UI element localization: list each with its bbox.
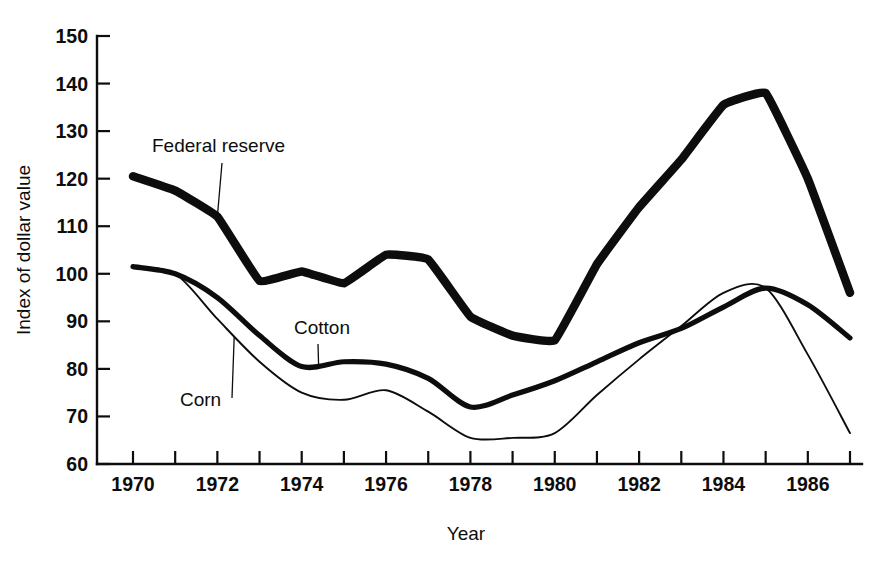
x-tick-label: 1972 — [196, 473, 240, 495]
annotation-label-corn: Corn — [180, 389, 221, 410]
y-tick-label: 90 — [66, 310, 88, 332]
chart-figure: Index of dollar value Year 6070809010011… — [0, 0, 875, 568]
y-axis-title: Index of dollar value — [13, 165, 34, 335]
x-tick-label: 1976 — [364, 473, 408, 495]
x-axis-ticks — [133, 451, 850, 464]
y-tick-label: 140 — [55, 73, 88, 95]
y-axis-tick-labels: 60708090100110120130140150 — [55, 25, 88, 475]
y-tick-label: 80 — [66, 358, 88, 380]
y-axis-ticks — [97, 36, 110, 464]
x-tick-label: 1986 — [786, 473, 830, 495]
annotation-label-cotton: Cotton — [294, 317, 350, 338]
annotation-label-federal-reserve: Federal reserve — [152, 135, 285, 156]
annotation-leader-line — [232, 336, 234, 398]
series-line-cotton — [133, 267, 850, 408]
x-tick-label: 1982 — [617, 473, 661, 495]
x-tick-label: 1984 — [702, 473, 746, 495]
y-tick-label: 120 — [55, 168, 88, 190]
annotation-leader-line — [318, 344, 319, 365]
y-tick-label: 70 — [66, 405, 88, 427]
line-chart: Index of dollar value Year 6070809010011… — [0, 0, 875, 568]
annotation-leader-line — [217, 163, 222, 217]
y-tick-label: 110 — [57, 215, 89, 237]
x-axis-tick-labels: 197019721974197619781980198219841986 — [111, 473, 829, 495]
x-tick-label: 1974 — [280, 473, 324, 495]
x-tick-label: 1970 — [111, 473, 155, 495]
y-tick-label: 150 — [55, 25, 88, 47]
y-tick-label: 60 — [66, 453, 88, 475]
y-tick-label: 100 — [55, 263, 88, 285]
x-axis-title: Year — [447, 523, 486, 544]
y-tick-label: 130 — [55, 120, 88, 142]
series-line-federal-reserve — [133, 93, 850, 341]
series-line-corn — [133, 267, 850, 440]
x-tick-label: 1980 — [533, 473, 577, 495]
x-tick-label: 1978 — [449, 473, 493, 495]
